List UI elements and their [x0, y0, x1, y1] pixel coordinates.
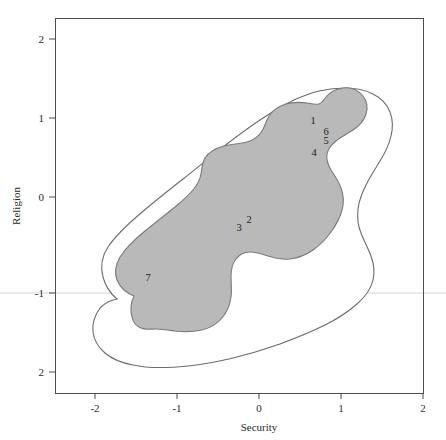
- x-tick-label: -1: [172, 402, 181, 414]
- x-axis-title: Security: [241, 421, 278, 433]
- y-axis-tick-labels: 2 1 0 -1 2: [35, 33, 45, 378]
- y-tick-label: 1: [39, 112, 45, 124]
- y-tick-label: 2: [39, 366, 45, 378]
- point-label-2: 2: [246, 214, 251, 225]
- y-axis-title: Religion: [10, 187, 22, 225]
- x-tick-label: 1: [338, 402, 344, 414]
- point-label-6: 6: [323, 126, 328, 137]
- point-label-3: 3: [236, 222, 241, 233]
- y-tick-label: 2: [39, 33, 45, 45]
- y-tick-label: 0: [39, 191, 45, 203]
- point-label-7: 7: [145, 272, 150, 283]
- x-tick-label: 0: [256, 402, 262, 414]
- chart-container: 2 1 0 -1 2 -2 -1 0 1 2 Security Religion: [0, 0, 446, 440]
- y-tick-label: -1: [35, 287, 44, 299]
- x-axis-tick-labels: -2 -1 0 1 2: [90, 402, 425, 414]
- x-tick-label: -2: [90, 402, 99, 414]
- contour-plot-svg: 2 1 0 -1 2 -2 -1 0 1 2 Security Religion: [0, 0, 446, 440]
- point-label-1: 1: [310, 115, 315, 126]
- x-tick-label: 2: [420, 402, 426, 414]
- y-axis-ticks: [49, 39, 55, 372]
- point-label-4: 4: [311, 147, 317, 158]
